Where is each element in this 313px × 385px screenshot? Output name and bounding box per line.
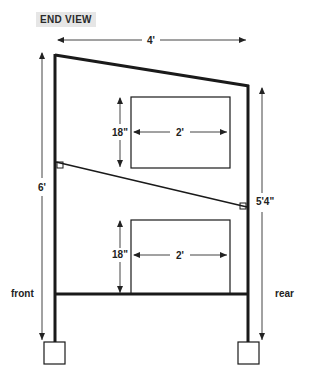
lower-window-height-label: 18" [112, 249, 128, 260]
rear-foot-block [238, 342, 259, 364]
rear-label: rear [275, 288, 294, 299]
diagonal-shelf [56, 162, 247, 207]
front-label: front [11, 288, 34, 299]
lower-window-width-label: 2' [176, 250, 184, 261]
roof-line [55, 55, 249, 86]
upper-window-height-label: 18" [112, 127, 128, 138]
rear-height-label: 5'4" [256, 196, 275, 207]
width-label: 4' [147, 35, 155, 46]
front-height-dimension: 6' [38, 53, 46, 340]
width-dimension: 4' [58, 35, 246, 46]
front-height-label: 6' [38, 182, 46, 193]
lower-window: 18" 2' [112, 220, 230, 294]
frame-structure [44, 54, 259, 364]
rear-height-dimension: 5'4" [256, 88, 275, 340]
end-view-diagram: 4' 18" 2' 18" 2' [0, 0, 313, 385]
front-foot-block [44, 342, 65, 364]
upper-window: 18" 2' [112, 97, 230, 168]
upper-window-width-label: 2' [176, 127, 184, 138]
